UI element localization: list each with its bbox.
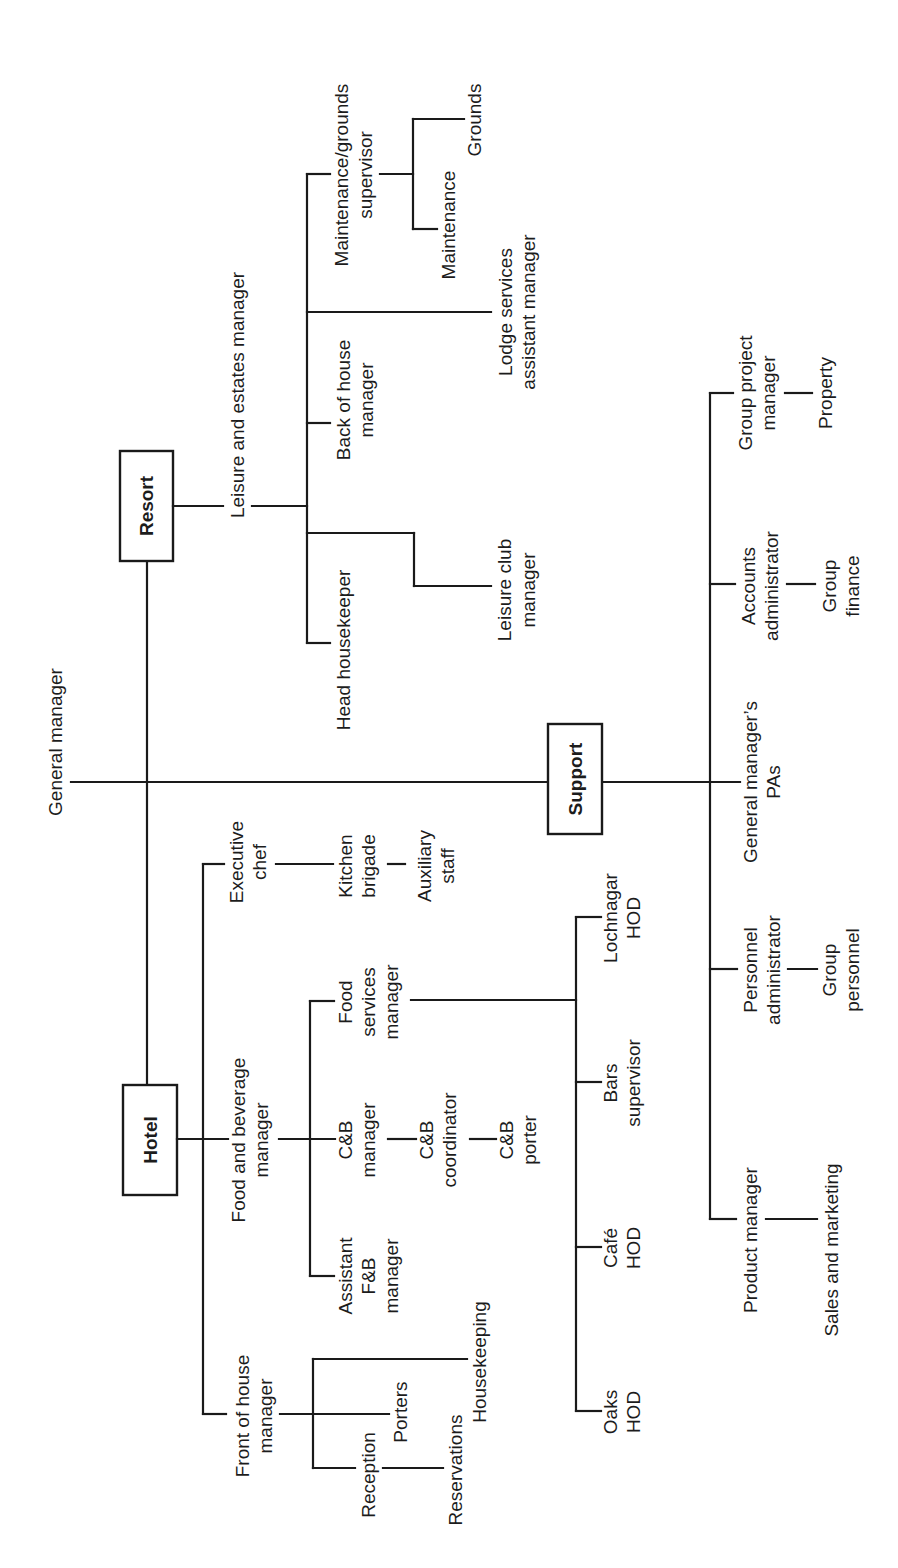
svg-text:manager: manager xyxy=(251,1102,272,1178)
svg-text:Kitchen: Kitchen xyxy=(335,834,356,897)
svg-text:administrator: administrator xyxy=(763,914,784,1024)
svg-text:staff: staff xyxy=(437,848,458,884)
svg-text:supervisor: supervisor xyxy=(623,1039,644,1127)
node-auxiliary-staff: Auxiliary staff xyxy=(414,830,458,902)
svg-text:Executive: Executive xyxy=(226,821,247,903)
svg-text:Lochnagar: Lochnagar xyxy=(600,872,621,962)
svg-text:Auxiliary: Auxiliary xyxy=(414,830,435,902)
svg-text:Maintenance/grounds: Maintenance/grounds xyxy=(331,84,352,267)
svg-text:Bars: Bars xyxy=(600,1063,621,1102)
svg-text:manager: manager xyxy=(518,552,539,628)
node-cb-porter: C&B porter xyxy=(496,1115,540,1165)
svg-text:Back of house: Back of house xyxy=(333,340,354,460)
node-housekeeping: Housekeeping xyxy=(469,1301,490,1422)
svg-text:chef: chef xyxy=(249,843,270,880)
node-reception: Reception xyxy=(358,1432,379,1518)
svg-text:Group: Group xyxy=(819,560,840,613)
node-food-beverage-manager: Food and beverage manager xyxy=(228,1058,272,1223)
svg-text:manager: manager xyxy=(358,1102,379,1178)
svg-text:brigade: brigade xyxy=(358,834,379,897)
svg-text:C&B: C&B xyxy=(416,1120,437,1159)
node-grounds: Grounds xyxy=(464,84,485,157)
node-resort: Resort xyxy=(136,475,157,536)
node-support: Support xyxy=(565,742,586,815)
svg-text:porter: porter xyxy=(519,1115,540,1165)
node-maintenance: Maintenance xyxy=(438,171,459,280)
svg-text:Accounts: Accounts xyxy=(738,547,759,625)
svg-text:C&B: C&B xyxy=(335,1120,356,1159)
node-leisure-club-manager: Leisure club manager xyxy=(494,539,539,641)
svg-text:manager: manager xyxy=(758,355,779,431)
node-back-of-house-manager: Back of house manager xyxy=(333,340,377,460)
svg-text:coordinator: coordinator xyxy=(439,1092,460,1188)
svg-text:personnel: personnel xyxy=(842,928,863,1011)
node-executive-chef: Executive chef xyxy=(226,821,270,903)
node-group-project-manager: Group project manager xyxy=(735,335,779,451)
svg-text:Assistant: Assistant xyxy=(335,1237,356,1315)
svg-text:Café: Café xyxy=(600,1228,621,1268)
node-group-finance: Group finance xyxy=(819,555,863,616)
svg-text:HOD: HOD xyxy=(623,897,644,939)
svg-text:HOD: HOD xyxy=(623,1391,644,1433)
svg-text:manager: manager xyxy=(356,362,377,438)
node-head-housekeeper: Head housekeeper xyxy=(333,569,354,730)
svg-text:General manager’s: General manager’s xyxy=(740,701,761,863)
node-leisure-estates-manager: Leisure and estates manager xyxy=(227,271,248,518)
spine-connectors xyxy=(71,561,740,1085)
svg-text:Food and beverage: Food and beverage xyxy=(228,1058,249,1223)
svg-text:Personnel: Personnel xyxy=(740,927,761,1013)
node-front-of-house-manager: Front of house manager xyxy=(232,1355,276,1478)
node-maintenance-grounds-supervisor: Maintenance/grounds supervisor xyxy=(331,84,376,267)
node-group-personnel: Group personnel xyxy=(819,928,863,1011)
svg-text:Lodge services: Lodge services xyxy=(495,248,516,376)
node-personnel-administrator: Personnel administrator xyxy=(740,914,784,1024)
node-reservations: Reservations xyxy=(445,1415,466,1526)
node-hotel: Hotel xyxy=(140,1116,161,1164)
svg-text:finance: finance xyxy=(842,555,863,616)
node-assistant-fb-manager: Assistant F&B manager xyxy=(335,1237,402,1315)
svg-text:manager: manager xyxy=(381,964,402,1040)
node-bars-supervisor: Bars supervisor xyxy=(600,1039,644,1127)
node-sales-marketing: Sales and marketing xyxy=(821,1163,842,1336)
svg-text:Front of house: Front of house xyxy=(232,1355,253,1478)
node-cb-coordinator: C&B coordinator xyxy=(416,1092,460,1188)
node-oaks-hod: Oaks HOD xyxy=(600,1390,644,1434)
svg-text:Group project: Group project xyxy=(735,335,756,451)
node-accounts-administrator: Accounts administrator xyxy=(738,530,782,640)
svg-text:Group: Group xyxy=(819,944,840,997)
svg-text:Leisure club: Leisure club xyxy=(494,539,515,641)
org-chart: General manager Resort Leisure and estat… xyxy=(0,0,898,1568)
svg-text:supervisor: supervisor xyxy=(355,131,376,219)
node-lodge-services-assistant-manager: Lodge services assistant manager xyxy=(495,234,539,390)
node-kitchen-brigade: Kitchen brigade xyxy=(335,834,379,897)
node-general-managers-pas: General manager’s PAs xyxy=(740,701,784,863)
svg-text:PAs: PAs xyxy=(763,765,784,798)
support-connectors xyxy=(710,393,817,1219)
svg-text:C&B: C&B xyxy=(496,1120,517,1159)
svg-text:services: services xyxy=(358,967,379,1037)
svg-text:HOD: HOD xyxy=(623,1227,644,1269)
svg-text:manager: manager xyxy=(255,1378,276,1454)
node-cb-manager: C&B manager xyxy=(335,1102,379,1178)
svg-text:assistant manager: assistant manager xyxy=(518,234,539,390)
svg-text:Food: Food xyxy=(335,980,356,1023)
svg-text:manager: manager xyxy=(381,1238,402,1314)
svg-text:administrator: administrator xyxy=(761,530,782,640)
node-cafe-hod: Café HOD xyxy=(600,1227,644,1269)
node-general-manager: General manager xyxy=(45,667,66,816)
node-product-manager: Product manager xyxy=(740,1166,761,1312)
node-property: Property xyxy=(815,357,836,429)
node-porters: Porters xyxy=(390,1381,411,1442)
svg-text:Oaks: Oaks xyxy=(600,1390,621,1434)
node-lochnagar-hod: Lochnagar HOD xyxy=(600,872,644,962)
node-food-services-manager: Food services manager xyxy=(335,964,402,1040)
svg-text:F&B: F&B xyxy=(358,1258,379,1295)
